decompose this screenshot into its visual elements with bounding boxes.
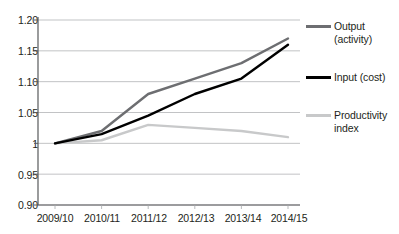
series-line bbox=[55, 45, 288, 144]
legend-label: Productivity index bbox=[334, 109, 399, 134]
legend-entry-output[interactable]: Output (activity) bbox=[306, 20, 399, 45]
axis-lines bbox=[38, 17, 300, 205]
legend-swatch-icon bbox=[306, 76, 331, 79]
legend-label: Output (activity) bbox=[334, 20, 399, 45]
x-axis-ticks bbox=[55, 205, 288, 209]
data-series-group bbox=[55, 39, 288, 144]
legend-swatch-icon bbox=[306, 114, 331, 117]
legend-entry-productivity[interactable]: Productivity index bbox=[306, 109, 399, 134]
gridlines bbox=[38, 20, 300, 205]
series-line bbox=[55, 39, 288, 144]
line-chart: 1.20 1.15 1.10 1.05 1 0.95 0.90 2009/10 … bbox=[0, 0, 399, 234]
legend-swatch-icon bbox=[306, 25, 331, 28]
legend-label: Input (cost) bbox=[334, 71, 385, 84]
legend-entry-input[interactable]: Input (cost) bbox=[306, 71, 385, 84]
